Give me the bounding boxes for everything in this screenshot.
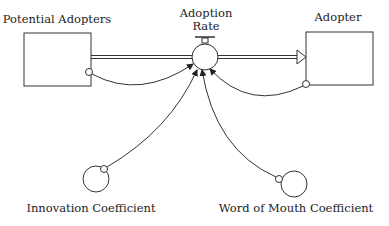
aux-innovation-coefficient-label: Innovation Coefficient [26,201,156,215]
link-origin-icon [276,176,283,183]
link-origin-icon [86,69,93,76]
stock-potential-adopters[interactable]: Potential Adopters [3,12,111,86]
flow-adoption-rate[interactable]: Adoption Rate [179,6,233,70]
link-origin-icon [101,166,108,173]
link-origin-icon [303,81,310,88]
aux-word-of-mouth-coefficient[interactable]: Word of Mouth Coefficient [219,171,374,215]
stock-flow-diagram: Potential Adopters Adopter Adoption Rate… [0,0,389,226]
aux-word-of-mouth-coefficient-label: Word of Mouth Coefficient [219,201,374,215]
stock-adopter[interactable]: Adopter [306,10,373,85]
flow-arrowhead-icon [297,50,306,64]
stock-potential-adopters-label: Potential Adopters [3,12,111,26]
flow-adoption-rate-label-line1: Adoption [179,6,233,20]
stock-adopter-label: Adopter [314,10,362,24]
flow-adoption-rate-label-line2: Rate [192,19,219,33]
link-innovation-to-rate[interactable] [107,70,197,167]
link-potential-adopters-to-rate[interactable] [86,64,194,85]
link-word-of-mouth-to-rate[interactable] [202,70,276,177]
valve-icon [192,44,218,70]
link-adopter-to-rate[interactable] [210,69,310,96]
aux-innovation-coefficient[interactable]: Innovation Coefficient [26,166,156,216]
